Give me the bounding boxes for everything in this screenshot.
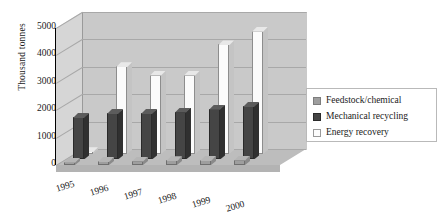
legend-label-energy: Energy recovery <box>326 128 389 138</box>
x-tick-label-2000: 2000 <box>225 199 246 214</box>
x-tick-label-1997: 1997 <box>123 187 144 202</box>
x-tick-label-1999: 1999 <box>191 195 212 210</box>
feedstock-swatch-icon <box>313 97 321 105</box>
legend-item-feedstock: Feedstock/chemical <box>313 93 431 109</box>
legend-label-feedstock: Feedstock/chemical <box>326 96 401 106</box>
energy-swatch-icon <box>313 129 321 137</box>
x-tick-label-1998: 1998 <box>157 191 178 206</box>
legend-label-mechanical: Mechanical recycling <box>326 112 408 122</box>
legend-item-energy: Energy recovery <box>313 125 431 141</box>
mechanical-swatch-icon <box>313 113 321 121</box>
x-tick-label-1995: 1995 <box>55 179 76 194</box>
chart-legend: Feedstock/chemical Mechanical recycling … <box>306 88 437 142</box>
x-tick-label-1996: 1996 <box>89 183 110 198</box>
chart-container: Thousand tonnes 010002000300040005000 19… <box>0 0 443 223</box>
legend-item-mechanical: Mechanical recycling <box>313 109 431 125</box>
